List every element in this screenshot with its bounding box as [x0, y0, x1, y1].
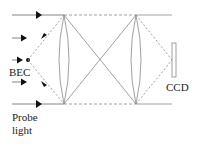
left-dashed-upper — [28, 15, 64, 60]
left-dashed-lower — [28, 60, 64, 104]
bec-arrow-icon — [17, 57, 23, 64]
right-lens — [131, 15, 141, 104]
ccd-label: CCD — [166, 81, 189, 93]
top-arrow-icon — [36, 11, 42, 19]
mid-upper-arrow-icon — [21, 35, 27, 42]
ccd-sensor — [172, 43, 176, 77]
left-lens — [59, 15, 69, 104]
left-dashed-arrow-up-icon — [41, 33, 47, 39]
right-dashed-upper — [136, 15, 172, 60]
probe-label: Probe — [12, 111, 38, 123]
mid-lower-arrow-icon — [21, 79, 27, 86]
light-label: light — [12, 124, 32, 136]
bottom-arrow-icon — [36, 100, 42, 108]
bec-label: BEC — [9, 66, 30, 78]
